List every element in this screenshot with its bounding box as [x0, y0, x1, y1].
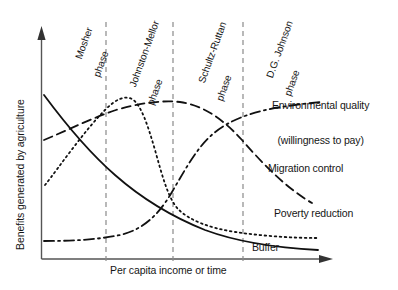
y-axis	[37, 26, 45, 259]
series-label-poverty-reduction: Poverty reduction	[274, 208, 353, 220]
series-label-environmental-quality: Environmental quality (willingness to pa…	[272, 76, 369, 170]
phase-label-mosher-line1: Mosher	[73, 26, 95, 61]
series-label-migration-control: Migration control	[268, 163, 343, 175]
chart-figure: Benefits generated by agriculture Per ca…	[0, 0, 398, 290]
phase-label-mosher-line2: phase	[91, 34, 116, 79]
series-label-buffer: Buffer	[252, 242, 279, 254]
x-axis	[42, 255, 334, 263]
y-axis-label: Benefits generated by agriculture	[14, 99, 26, 250]
series-label-environmental-quality-line1: Environmental quality	[272, 100, 369, 112]
x-axis-label: Per capita income or time	[110, 264, 227, 276]
series-label-environmental-quality-line2: (willingness to pay)	[272, 135, 369, 147]
